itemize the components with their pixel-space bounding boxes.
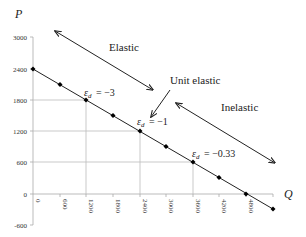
x-axis-title: Q	[284, 187, 293, 201]
svg-text:εd: εd	[137, 116, 145, 129]
elasticity-value: = −0.33	[204, 148, 235, 159]
y-tick-label: -600	[14, 222, 27, 230]
x-tick-label: 2400	[141, 199, 149, 214]
elasticity-annotation-3: εd = −0.33	[192, 148, 235, 161]
svg-text:εd: εd	[192, 148, 200, 161]
inelastic-label: Inelastic	[221, 101, 258, 113]
data-point	[271, 207, 276, 212]
y-tick-label: 2400	[13, 66, 28, 74]
elasticity-value: = −3	[96, 87, 115, 98]
x-tick-label: 3600	[194, 199, 202, 214]
y-axis-title: P	[14, 7, 23, 21]
svg-text:εd: εd	[84, 87, 92, 100]
y-tick-label: 1800	[13, 97, 28, 105]
x-tick-labels: 0 600 1200 1800 2400 3000 3600 4200 4800	[34, 199, 255, 214]
x-tick-label: 0	[34, 199, 42, 203]
y-tick-label: 0	[24, 191, 28, 199]
x-tick-label: 1800	[114, 199, 122, 214]
data-point	[31, 67, 36, 72]
y-tick-label: 1200	[13, 128, 28, 136]
elastic-double-arrow	[55, 31, 153, 90]
elasticity-annotation-1: εd = −3	[84, 87, 115, 100]
elastic-label: Elastic	[109, 41, 139, 53]
unit-elastic-pointer-arrow	[151, 90, 170, 117]
data-point	[217, 175, 222, 180]
x-tick-label: 4800	[247, 199, 255, 214]
x-tick-label: 4200	[220, 199, 228, 214]
y-tick-label: 600	[17, 159, 28, 167]
elasticity-annotation-2: εd = −1	[137, 116, 168, 129]
demand-series	[31, 67, 276, 212]
x-tick-label: 3000	[167, 199, 175, 214]
demand-elasticity-chart: 3000 2400 1800 1200 600 0 -600 0 600 120…	[0, 0, 306, 237]
x-tick-label: 1200	[87, 199, 95, 214]
y-tick-labels: 3000 2400 1800 1200 600 0 -600	[13, 34, 28, 230]
y-tick-label: 3000	[13, 34, 28, 42]
x-tick-label: 600	[61, 199, 69, 210]
unit-elastic-label: Unit elastic	[170, 74, 221, 86]
data-point	[164, 144, 169, 149]
elasticity-value: = −1	[149, 116, 168, 127]
